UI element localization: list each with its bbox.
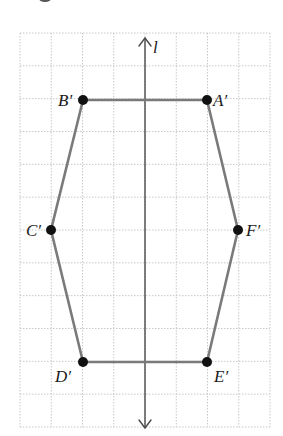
axis-label-l: l <box>153 38 158 57</box>
vertex-point <box>233 225 243 235</box>
line-of-reflection-l: l <box>139 38 158 428</box>
vertex-label: E′ <box>213 367 228 386</box>
vertex-labels: A′B′C′D′E′F′ <box>26 91 260 386</box>
vertex-point <box>202 357 212 367</box>
vertex-point <box>78 95 88 105</box>
vertex-point <box>202 95 212 105</box>
vertex-label: A′ <box>212 91 227 110</box>
vertex-label: F′ <box>245 221 260 240</box>
vertex-point <box>78 357 88 367</box>
reflection-diagram: l A′B′C′D′E′F′ <box>0 0 283 436</box>
vertex-label: C′ <box>26 221 41 240</box>
vertex-label: D′ <box>54 367 71 386</box>
vertex-label: B′ <box>58 91 72 110</box>
vertex-point <box>46 225 56 235</box>
